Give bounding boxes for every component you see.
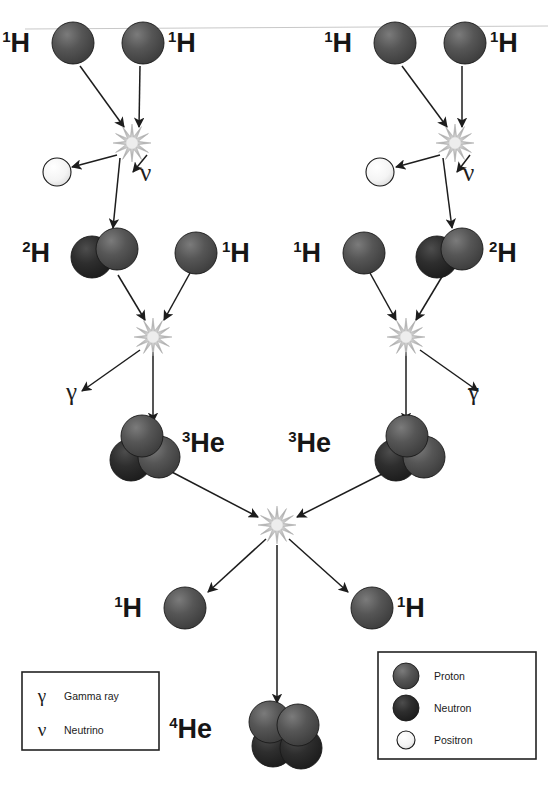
nucleus-he4-final [249,701,322,769]
element-symbol: H [176,28,196,58]
proton-d2-right [441,228,483,270]
arrow-fusion1-left-to-d2 [113,158,120,228]
proton-h1-out-left [164,587,206,629]
starburst-core [400,331,411,342]
nucleus-label-h1-mid-right: 1H [293,238,321,268]
arrow-h1-a-to-fusion1-right [402,66,447,127]
element-symbol: He [296,428,331,458]
element-symbol: H [497,238,517,268]
neutrino-right: ν [463,159,474,186]
mass-number: 1 [324,28,332,45]
mass-number: 2 [22,238,30,255]
nucleus-h1-top-left-b [122,22,164,64]
nucleus-label-he3-right: 3He [288,428,331,458]
nucleus-h1-out-left [164,587,206,629]
proton-h1-out-right [351,587,393,629]
greek-layer: ννγγ [65,159,479,405]
mass-number: 2 [489,238,497,255]
arrow-d2-right-to-fusion2 [416,275,443,320]
mass-number: 1 [2,28,10,45]
legend-symbol-0: γ [37,685,46,706]
legend-label-0: Gamma ray [64,690,120,702]
mass-number: 1 [490,28,498,45]
element-symbol: H [11,28,31,58]
starburst-core [126,137,137,148]
nucleus-h1-out-right [351,587,393,629]
nucleus-label-h1-top-left-a: 1H [2,28,30,58]
nucleus-label-h1-out-right: 1H [397,593,425,623]
nucleus-label-h1-top-right-b: 1H [490,28,518,58]
element-symbol: H [123,593,143,623]
nucleus-label-h1-out-left: 1H [114,593,142,623]
starburst-fusion-2-right [387,318,425,356]
arrow-h1-b-to-fusion1-left [139,66,140,127]
starburst-core [449,137,460,148]
nucleus-label-h1-top-right-a: 1H [324,28,352,58]
arrow-h1-mid-left-to-fusion2 [164,273,190,320]
nucleus-d2-left [71,228,138,278]
mass-number: 1 [293,238,301,255]
legend-label-proton: Proton [434,670,465,682]
symbol-legend: γGamma rayνNeutrino [22,672,159,750]
element-symbol: H [498,28,518,58]
nucleus-h1-mid-right [343,232,385,274]
gamma-right: γ [467,378,479,405]
proton-h1-mid-right [343,232,385,274]
nucleus-h1-mid-left [175,232,217,274]
starburst-fusion-final [258,506,296,544]
legend-swatch-neutron [393,695,419,721]
proton-d2-left [96,228,138,270]
nucleus-he3-left [110,415,180,481]
nucleus-label-h1-top-left-b: 1H [168,28,196,58]
arrow-fusion2-left-to-gamma [82,350,140,391]
legend-label-1: Neutrino [64,724,104,736]
element-symbol: H [405,593,425,623]
particle-legend: ProtonNeutronPositron [378,652,536,759]
element-symbol: He [177,714,212,744]
arrow-fusion1-right-to-positron [396,155,440,167]
legend-label-neutron: Neutron [434,702,472,714]
gamma-left: γ [65,378,77,405]
positron-layer [43,158,394,186]
starburst-layer [113,124,474,544]
proton-b-he4-final [277,704,319,746]
mass-number: 1 [222,238,230,255]
element-symbol: He [190,428,225,458]
element-symbol: H [333,28,353,58]
nucleus-label-d2-left: 2H [22,238,50,268]
positron-right [366,158,394,186]
nucleus-label-h1-mid-left: 1H [222,238,250,268]
proton-h1-top-right-a [374,22,416,64]
nucleus-label-he3-left: 3He [182,428,225,458]
legend-swatch-proton [393,663,419,689]
mass-number: 3 [182,428,190,445]
proton-h1-top-left-a [52,22,94,64]
starburst-core [147,331,158,342]
starburst-core [271,519,282,530]
arrow-final-to-h1-left [208,539,266,592]
arrow-fusion1-right-to-d2 [443,158,452,228]
arrow-final-to-h1-right [289,539,348,592]
positron-left [43,158,71,186]
mass-number: 1 [168,28,176,45]
arrow-he3-left-to-final [168,470,258,517]
element-symbol: H [31,238,51,268]
arrow-fusion1-left-to-positron [72,155,117,167]
arrow-he3-right-to-final [297,470,390,517]
proton-b-he3-right [386,415,428,457]
mass-number: 3 [288,428,296,445]
arrow-h1-a-to-fusion1-left [80,66,124,127]
arrow-d2-left-to-fusion2 [118,275,145,320]
nucleus-h1-top-right-a [374,22,416,64]
proton-h1-top-right-b [444,22,486,64]
proton-b-he3-left [121,415,163,457]
nucleus-h1-top-left-a [52,22,94,64]
diagram-canvas: 1H1H1H1H2H1H1H2H3He3He1H1H4He ννγγ γGamm… [0,0,557,793]
legend-symbol-1: ν [38,719,47,740]
proton-h1-mid-left [175,232,217,274]
mass-number: 1 [397,593,405,610]
nucleus-h1-top-right-b [444,22,486,64]
proton-h1-top-left-b [122,22,164,64]
arrow-h1-mid-right-to-fusion2 [370,273,396,320]
legend-label-positron: Positron [434,734,473,746]
